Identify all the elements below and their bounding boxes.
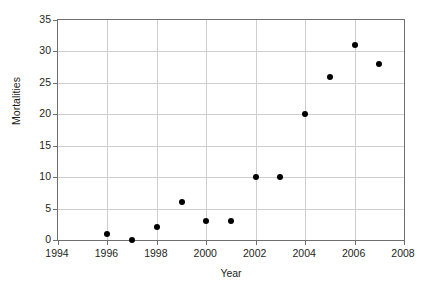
gridline-horizontal bbox=[58, 114, 404, 115]
x-axis-tick bbox=[58, 240, 59, 245]
y-axis-tick bbox=[53, 209, 58, 210]
data-point bbox=[104, 231, 110, 237]
gridline-horizontal bbox=[58, 146, 404, 147]
y-axis-tick bbox=[53, 146, 58, 147]
gridline-horizontal bbox=[58, 51, 404, 52]
data-point bbox=[327, 74, 333, 80]
gridline-vertical bbox=[157, 20, 158, 240]
data-point bbox=[179, 199, 185, 205]
data-point bbox=[228, 218, 234, 224]
x-axis-tick-label: 2002 bbox=[243, 248, 266, 259]
y-axis-tick-label: 15 bbox=[39, 139, 51, 150]
data-point bbox=[154, 224, 160, 230]
y-axis-tick-label: 25 bbox=[39, 77, 51, 88]
gridline-vertical bbox=[107, 20, 108, 240]
x-axis-tick bbox=[157, 240, 158, 245]
x-axis-tick bbox=[256, 240, 257, 245]
x-axis-tick-label: 1996 bbox=[95, 248, 118, 259]
y-axis-tick bbox=[53, 114, 58, 115]
x-axis-tick-label: 1994 bbox=[45, 248, 68, 259]
y-axis-tick-label: 10 bbox=[39, 171, 51, 182]
data-point bbox=[376, 61, 382, 67]
x-axis-tick bbox=[206, 240, 207, 245]
scatter-chart: Mortalities 05101520253035 1994199619982… bbox=[0, 0, 425, 292]
gridline-vertical bbox=[206, 20, 207, 240]
x-axis-tick bbox=[355, 240, 356, 245]
gridline-horizontal bbox=[58, 83, 404, 84]
y-axis-tick-label: 30 bbox=[39, 45, 51, 56]
gridline-horizontal bbox=[58, 209, 404, 210]
x-axis-tick-label: 1998 bbox=[144, 248, 167, 259]
x-axis-tick-label: 2008 bbox=[391, 248, 414, 259]
gridline-vertical bbox=[256, 20, 257, 240]
data-point bbox=[253, 174, 259, 180]
gridline-vertical bbox=[305, 20, 306, 240]
data-point bbox=[352, 42, 358, 48]
x-axis-tick bbox=[305, 240, 306, 245]
gridline-horizontal bbox=[58, 177, 404, 178]
y-axis-tick bbox=[53, 51, 58, 52]
x-axis-tick-label: 2006 bbox=[342, 248, 365, 259]
y-axis-tick-labels: 05101520253035 bbox=[30, 19, 51, 241]
y-axis-tick-label: 20 bbox=[39, 108, 51, 119]
y-axis-tick bbox=[53, 177, 58, 178]
data-point bbox=[277, 174, 283, 180]
y-axis-title: Mortalities bbox=[10, 51, 22, 151]
y-axis-tick bbox=[53, 83, 58, 84]
x-axis-tick-label: 2000 bbox=[194, 248, 217, 259]
y-axis-tick-label: 35 bbox=[39, 14, 51, 25]
x-axis-tick-labels: 19941996199820002002200420062008 bbox=[57, 248, 405, 262]
y-axis-tick bbox=[53, 20, 58, 21]
x-axis-tick bbox=[107, 240, 108, 245]
x-axis-title: Year bbox=[57, 267, 405, 279]
plot-area bbox=[57, 19, 405, 241]
y-axis-tick-label: 5 bbox=[45, 202, 51, 213]
gridline-vertical bbox=[355, 20, 356, 240]
data-point bbox=[129, 237, 135, 243]
y-axis-tick-label: 0 bbox=[45, 234, 51, 245]
data-point bbox=[203, 218, 209, 224]
data-point bbox=[302, 111, 308, 117]
x-axis-tick-label: 2004 bbox=[292, 248, 315, 259]
x-axis-tick bbox=[404, 240, 405, 245]
